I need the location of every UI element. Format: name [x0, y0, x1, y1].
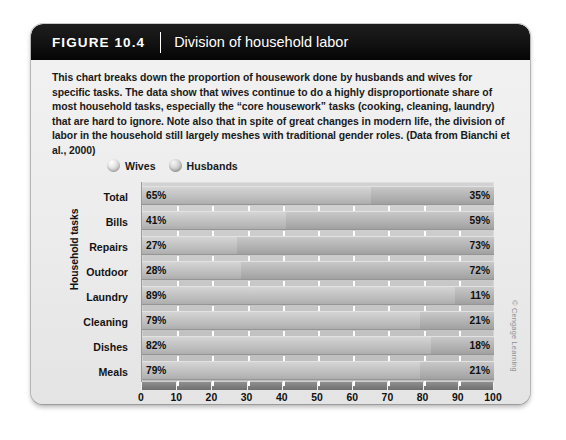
- gridline-tick: [248, 306, 250, 311]
- gridline-tick: [283, 331, 285, 336]
- header-divider: [160, 32, 161, 53]
- sphere-icon: [169, 159, 182, 172]
- category-label: Repairs: [74, 236, 134, 259]
- bar-segment-wives: [142, 337, 431, 354]
- category-label: Laundry: [74, 286, 134, 309]
- gridline-tick: [388, 381, 390, 386]
- stacked-bar: [142, 336, 494, 355]
- gridline-tick: [353, 381, 355, 386]
- gridline-tick: [248, 331, 250, 336]
- x-tick-label: 40: [276, 392, 288, 403]
- x-tick-label: 20: [206, 392, 218, 403]
- gridline-tick: [212, 306, 214, 311]
- bar-segment-wives: [142, 312, 420, 329]
- gridline-tick: [388, 281, 390, 286]
- gridline-tick: [248, 256, 250, 261]
- stacked-bar: [142, 361, 494, 380]
- x-tick-label: 0: [138, 392, 144, 403]
- bar-value-wives: 82%: [146, 336, 166, 355]
- gridline-tick: [318, 356, 320, 361]
- gridline-tick: [388, 256, 390, 261]
- figure-caption: This chart breaks down the proportion of…: [52, 71, 511, 159]
- bar-value-wives: 27%: [146, 236, 166, 255]
- stacked-bar: [142, 311, 494, 330]
- gridline-tick: [459, 256, 461, 261]
- bar-row: 65%35%: [142, 186, 494, 205]
- gridline-tick: [248, 281, 250, 286]
- gridline-tick: [212, 206, 214, 211]
- gridline-tick: [177, 331, 179, 336]
- figure-screenshot: FIGURE 10.4 Division of household labor …: [0, 0, 566, 440]
- gridline-tick: [283, 206, 285, 211]
- bar-segment-husbands: [241, 262, 494, 279]
- bar-value-husbands: 11%: [470, 286, 490, 305]
- gridline-tick: [283, 356, 285, 361]
- figure-number: FIGURE 10.4: [31, 35, 145, 50]
- bar-row: 27%73%: [142, 236, 494, 255]
- gridline-tick: [318, 256, 320, 261]
- gridline-tick: [459, 381, 461, 386]
- gridline-tick: [177, 206, 179, 211]
- bar-row: 82%18%: [142, 336, 494, 355]
- gridline-tick: [424, 256, 426, 261]
- gridline-tick: [318, 231, 320, 236]
- gridline-tick: [353, 306, 355, 311]
- gridline-tick: [212, 381, 214, 386]
- gridline-tick: [459, 206, 461, 211]
- gridline-tick: [459, 231, 461, 236]
- figure-header: FIGURE 10.4 Division of household labor: [31, 24, 530, 60]
- bar-segment-husbands: [286, 212, 494, 229]
- gridline-tick: [318, 206, 320, 211]
- x-tick-label: 30: [241, 392, 253, 403]
- gridline-tick: [424, 306, 426, 311]
- gridline-tick: [212, 356, 214, 361]
- gridline-tick: [248, 231, 250, 236]
- gridline-tick: [388, 331, 390, 336]
- gridline-tick: [388, 306, 390, 311]
- figure-title: Division of household labor: [174, 34, 348, 50]
- bar-value-wives: 65%: [146, 186, 166, 205]
- stacked-bar: [142, 236, 494, 255]
- gridline-tick: [459, 306, 461, 311]
- x-tick-label: 60: [346, 392, 358, 403]
- x-tick-label: 70: [382, 392, 394, 403]
- gridline-tick: [353, 281, 355, 286]
- gridline-tick: [283, 381, 285, 386]
- gridline-tick: [353, 256, 355, 261]
- gridline-tick: [424, 206, 426, 211]
- bar-row: 79%21%: [142, 361, 494, 380]
- gridline-tick: [177, 306, 179, 311]
- bar-value-wives: 89%: [146, 286, 166, 305]
- gridline-tick: [424, 356, 426, 361]
- stacked-bar: [142, 286, 494, 305]
- bar-value-wives: 79%: [146, 361, 166, 380]
- category-label: Meals: [74, 361, 134, 384]
- bar-value-wives: 41%: [146, 211, 166, 230]
- bar-row: 41%59%: [142, 211, 494, 230]
- bar-value-husbands: 59%: [470, 211, 490, 230]
- gridline-tick: [424, 231, 426, 236]
- bar-value-husbands: 35%: [470, 186, 490, 205]
- gridline-tick: [318, 331, 320, 336]
- gridline-tick: [283, 306, 285, 311]
- gridline-tick: [283, 256, 285, 261]
- axis-tick: [141, 382, 142, 390]
- legend-label-husbands: Husbands: [187, 160, 238, 172]
- bar-row: 28%72%: [142, 261, 494, 280]
- gridline-tick: [177, 356, 179, 361]
- gridline-tick: [248, 356, 250, 361]
- category-label: Dishes: [74, 336, 134, 359]
- stacked-bar: [142, 186, 494, 205]
- category-label: Outdoor: [74, 261, 134, 284]
- stacked-bar: [142, 261, 494, 280]
- gridline-tick: [212, 281, 214, 286]
- x-tick-label: 100: [484, 392, 501, 403]
- bar-row: 89%11%: [142, 286, 494, 305]
- bar-row: 79%21%: [142, 311, 494, 330]
- stacked-bar: [142, 211, 494, 230]
- gridline-tick: [424, 331, 426, 336]
- plot-area: 65%35%41%59%27%73%28%72%89%11%79%21%82%1…: [141, 182, 494, 382]
- gridline-tick: [212, 331, 214, 336]
- bar-value-husbands: 72%: [470, 261, 490, 280]
- gridline-tick: [318, 306, 320, 311]
